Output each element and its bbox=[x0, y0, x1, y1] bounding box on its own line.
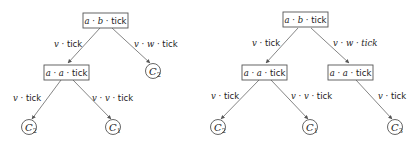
edge-label-v-v-tick: v · v · tick bbox=[291, 91, 332, 101]
decision-trees-diagram: v · tick v · w · tick v · tick v · v · t… bbox=[0, 0, 419, 147]
leaf-c2: C2 bbox=[146, 64, 161, 79]
right-tree: v · tick v · w · tick v · tick v · v · t… bbox=[211, 12, 407, 135]
left-tree: v · tick v · w · tick v · tick v · v · t… bbox=[13, 13, 178, 135]
svg-text:a · b · tick: a · b · tick bbox=[84, 16, 126, 26]
edge-label-v-tick: v · tick bbox=[13, 93, 41, 103]
edge-label-v-tick: v · tick bbox=[54, 39, 82, 49]
edge-label-v-w-tick: v · w · tick bbox=[134, 39, 178, 49]
edge-label-v-v-tick: v · v · tick bbox=[92, 93, 133, 103]
edge-label-v-tick: v · tick bbox=[378, 91, 406, 101]
leaf-c3: C3 bbox=[388, 120, 403, 135]
svg-text:a · a · tick: a · a · tick bbox=[244, 68, 286, 78]
svg-text:a · b · tick: a · b · tick bbox=[284, 15, 326, 25]
leaf-c2: C2 bbox=[22, 120, 37, 135]
leaf-c1: C1 bbox=[106, 120, 121, 135]
edge-label-v-tick: v · tick bbox=[211, 91, 239, 101]
node-a-a-tick-right: a · a · tick bbox=[328, 65, 373, 80]
node-a-b-tick: a · b · tick bbox=[283, 12, 328, 27]
svg-text:a · a · tick: a · a · tick bbox=[46, 68, 88, 78]
edge-label-v-tick: v · tick bbox=[252, 38, 280, 48]
node-a-b-tick: a · b · tick bbox=[83, 13, 128, 28]
svg-text:a · a · tick: a · a · tick bbox=[330, 68, 372, 78]
leaf-c2: C2 bbox=[211, 120, 226, 135]
edge-label-v-w-tick: v · w · tick bbox=[333, 38, 377, 48]
leaf-c1: C1 bbox=[303, 120, 318, 135]
node-a-a-tick: a · a · tick bbox=[44, 65, 89, 80]
node-a-a-tick-left: a · a · tick bbox=[242, 65, 287, 80]
